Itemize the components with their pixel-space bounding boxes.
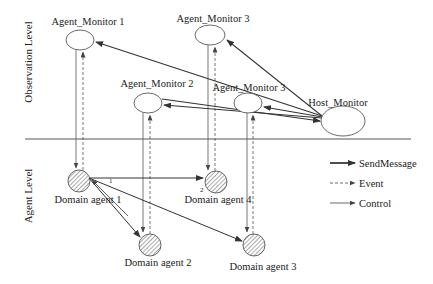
- domain-agent-1-node[interactable]: [68, 170, 90, 192]
- agent-monitor-2-node[interactable]: [134, 93, 162, 113]
- domain-agent-2-node[interactable]: [139, 234, 161, 256]
- agent-monitor-1-label: Agent_Monitor 1: [51, 16, 124, 27]
- legend-sendmessage-label: SendMessage: [359, 158, 417, 169]
- domain-agent-4-label: Domain agent 4: [184, 194, 252, 205]
- host-monitor-label: Host_Monitor: [308, 97, 368, 108]
- agent-monitor-2-label: Agent_Monitor 2: [120, 78, 193, 89]
- agent-monitor-1-node[interactable]: [66, 30, 94, 50]
- edge-label-1: 1: [109, 177, 113, 185]
- legend: SendMessage Event Control: [330, 158, 417, 209]
- legend-event-label: Event: [359, 178, 384, 189]
- domain-agents: Domain agent 1 Domain agent 4 Domain age…: [54, 170, 296, 272]
- legend-control-label: Control: [359, 198, 391, 209]
- domain-agent-2-label: Domain agent 2: [124, 257, 191, 268]
- vertical-links: [76, 45, 253, 234]
- sendmessage-da1-da2: [89, 178, 140, 237]
- domain-agent-3-label: Domain agent 3: [229, 261, 296, 272]
- domain-agent-4-node[interactable]: [205, 171, 227, 193]
- agent-monitor-3-mid-node[interactable]: [234, 93, 262, 113]
- domain-agent-3-node[interactable]: [243, 234, 265, 256]
- agent-monitor-3-top-label: Agent_Monitor 3: [176, 13, 249, 24]
- domain-agent-1-label: Domain agent 1: [54, 194, 121, 205]
- architecture-diagram: Observation Level Agent Level 1 2: [0, 0, 433, 284]
- observation-level-label: Observation Level: [22, 21, 34, 103]
- agent-monitor-3-top-node[interactable]: [195, 25, 225, 45]
- agent-level-label: Agent Level: [22, 169, 34, 224]
- agent-monitor-3-mid-label: Agent_Monitor 3: [212, 82, 285, 93]
- host-monitor-node[interactable]: [321, 106, 365, 136]
- edge-label-2: 2: [200, 186, 204, 194]
